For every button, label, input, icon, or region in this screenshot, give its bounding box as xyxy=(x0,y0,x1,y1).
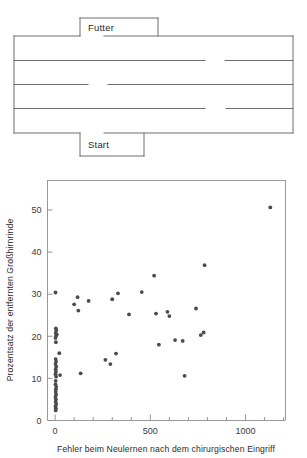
data-point xyxy=(199,333,203,337)
y-tick-label: 0 xyxy=(36,416,41,426)
maze-diagram xyxy=(0,0,307,170)
data-point xyxy=(181,339,185,343)
y-axis: 01020304050 xyxy=(31,205,52,426)
data-point xyxy=(54,291,58,295)
y-tick-label: 20 xyxy=(31,332,41,342)
data-point xyxy=(140,290,144,294)
y-tick-label: 40 xyxy=(31,247,41,257)
data-point xyxy=(87,299,91,303)
data-point xyxy=(194,307,198,311)
data-point xyxy=(173,338,177,342)
maze-figure: Futter Start xyxy=(0,0,307,170)
maze-start-label: Start xyxy=(88,139,109,150)
x-tick-label: 500 xyxy=(143,426,158,436)
data-point xyxy=(72,302,76,306)
x-tick-label: 0 xyxy=(53,426,58,436)
data-points-group xyxy=(54,206,273,413)
data-point xyxy=(54,336,58,340)
data-point xyxy=(152,274,156,278)
x-axis-title: Fehler beim Neulernen nach dem chirurgis… xyxy=(57,444,275,454)
data-point xyxy=(103,358,107,362)
data-point xyxy=(58,373,62,377)
x-axis: 05001000 xyxy=(53,415,284,436)
data-point xyxy=(114,352,118,356)
data-point xyxy=(167,314,171,318)
data-point xyxy=(79,371,83,375)
data-point xyxy=(116,291,120,295)
data-point xyxy=(202,331,206,335)
data-point xyxy=(110,297,114,301)
data-point xyxy=(76,295,80,299)
data-point xyxy=(154,312,158,316)
data-point xyxy=(54,408,58,412)
data-point xyxy=(57,351,61,355)
data-point xyxy=(54,375,58,379)
data-point xyxy=(268,206,272,210)
y-tick-label: 10 xyxy=(31,374,41,384)
data-point xyxy=(54,340,58,344)
y-tick-label: 30 xyxy=(31,289,41,299)
data-point xyxy=(157,343,161,347)
data-point xyxy=(108,362,112,366)
data-point xyxy=(183,374,187,378)
x-tick-label: 1000 xyxy=(236,426,256,436)
scatter-plot-figure: 01020304050 05001000 Fehler beim Neulern… xyxy=(0,175,307,458)
y-tick-label: 50 xyxy=(31,205,41,215)
scatter-plot: 01020304050 05001000 Fehler beim Neulern… xyxy=(0,175,307,458)
data-point xyxy=(203,263,207,267)
data-point xyxy=(76,309,80,313)
data-point xyxy=(127,312,131,316)
maze-food-label: Futter xyxy=(88,22,114,33)
y-axis-title: Prozentsatz der entfernten Großhirnrinde xyxy=(5,219,15,382)
maze-inner-walls xyxy=(14,61,293,109)
maze-outer-walls xyxy=(14,18,293,156)
data-point xyxy=(166,310,170,314)
plot-frame xyxy=(48,180,286,421)
data-point xyxy=(54,379,58,383)
